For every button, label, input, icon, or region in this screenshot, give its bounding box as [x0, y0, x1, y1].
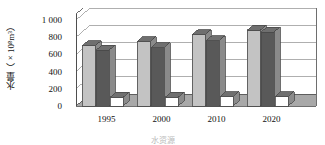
- x-tick-label-2020: 2020: [249, 114, 295, 124]
- x-tick-label-2000: 2000: [139, 114, 185, 124]
- x-tick-label-1995: 1995: [84, 114, 130, 124]
- y-tick-label: 200: [18, 85, 62, 94]
- y-axis-title-text: 水量（×10⁸m³）: [4, 22, 17, 90]
- plot-area: [62, 8, 320, 112]
- y-tick-label: 600: [18, 50, 62, 59]
- y-tick-label: 0: [18, 102, 62, 111]
- y-tick-label: 1 000: [18, 16, 62, 25]
- plot-svg: [62, 8, 320, 112]
- bar-2020-series-2: [261, 27, 280, 106]
- x-axis-labels: 1995200020102020: [62, 114, 320, 126]
- bar-2010-series-3: [220, 92, 239, 106]
- x-tick-label-2010: 2010: [194, 114, 240, 124]
- y-axis-ticks: 1 0008006004002000: [16, 0, 62, 145]
- bar-chart: 水量（×10⁸m³） 1 0008006004002000 1995200020…: [0, 0, 325, 145]
- y-tick-label: 400: [18, 68, 62, 77]
- x-axis-title: 水资源: [0, 136, 325, 145]
- bar-2020-series-3: [275, 92, 294, 106]
- y-tick-label: 800: [18, 33, 62, 42]
